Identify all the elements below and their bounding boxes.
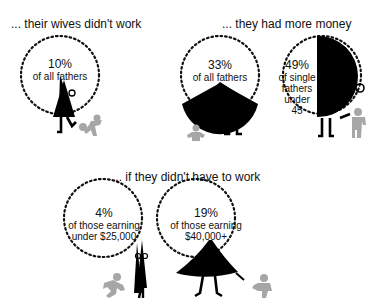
pie-percent: 10% xyxy=(20,58,100,71)
father-body-icon xyxy=(176,240,238,277)
pie-description-line: $40,000+ xyxy=(160,231,252,242)
pie-percent: 4% xyxy=(58,207,150,220)
father-body-icon xyxy=(53,80,75,117)
pie-description-line: of those earning xyxy=(160,220,252,231)
child-icon xyxy=(352,108,366,138)
pie-percent: 49% xyxy=(278,59,316,72)
pie-description: of all fathers xyxy=(193,72,247,83)
pie-description-line: of those earning xyxy=(58,220,150,231)
group-heading-money: ... they had more money xyxy=(222,17,351,31)
pie-description-line: fathers xyxy=(278,83,316,94)
pie-description-line: under $25,000 xyxy=(58,231,150,242)
child-icon xyxy=(103,273,125,298)
pie-label-1: 10% of all fathers xyxy=(20,58,100,82)
group-heading-work: ... if they didn't have to work xyxy=(112,170,260,184)
pie-label-3: 49% of single fathers under 45 xyxy=(278,59,316,116)
father-body-icon xyxy=(317,36,358,117)
pie-percent: 33% xyxy=(180,59,260,72)
pie-label-2: 33% of all fathers xyxy=(180,59,260,83)
pie-description-line: 45 xyxy=(278,105,316,116)
pie-10-percent xyxy=(21,36,102,136)
infographic-graphics xyxy=(0,0,372,299)
pie-description-line: under xyxy=(278,94,316,105)
pie-description-line: of single xyxy=(278,72,316,83)
group-heading-wives: ... their wives didn't work xyxy=(11,17,141,31)
child-icon xyxy=(79,115,102,137)
pie-label-4: 4% of those earning under $25,000 xyxy=(58,207,150,242)
pie-percent: 19% xyxy=(160,207,252,220)
pie-33-percent xyxy=(181,36,259,141)
pie-description: of all fathers xyxy=(33,71,87,82)
child-icon xyxy=(252,274,272,298)
pie-label-5: 19% of those earning $40,000+ xyxy=(160,207,252,242)
